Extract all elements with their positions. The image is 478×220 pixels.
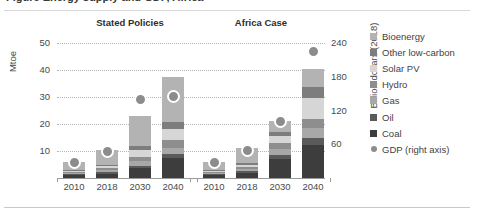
gdp-marker-africa-case-2040[interactable] — [307, 45, 320, 58]
legend-item-other-low-carbon[interactable]: Other low-carbon — [370, 44, 476, 60]
x-tick-label-africa-case-2018: 2018 — [230, 181, 264, 192]
panel-tick-1-0 — [197, 178, 198, 182]
x-tick-label-stated-policies-2018: 2018 — [90, 181, 124, 192]
gdp-marker-stated-policies-2018[interactable] — [101, 145, 114, 158]
gdp-marker-stated-policies-2010[interactable] — [68, 156, 81, 169]
x-axis-line — [57, 178, 325, 179]
gdp-marker-stated-policies-2030[interactable] — [134, 93, 147, 106]
left-axis-tick-50: 50 — [26, 37, 50, 48]
chart-figure: Figure Energy supply and GDP, Africa Sta… — [0, 0, 478, 220]
left-axis-title: Mtoe — [7, 42, 18, 82]
x-tick-label-stated-policies-2040: 2040 — [156, 181, 190, 192]
left-axis-tick-30: 30 — [26, 91, 50, 102]
gdp-marker-stated-policies-2040[interactable] — [167, 90, 180, 103]
legend-label: Hydro — [382, 79, 407, 90]
legend-swatch-icon — [370, 97, 377, 104]
legend-label: Bioenergy — [382, 31, 425, 42]
legend-item-solar-pv[interactable]: Solar PV — [370, 60, 476, 76]
plot-area — [57, 30, 325, 178]
legend-label: Coal — [382, 128, 402, 139]
x-tick-label-africa-case-2030: 2030 — [263, 181, 297, 192]
legend-swatch-icon — [370, 33, 377, 40]
panel-tick-0-0 — [57, 178, 58, 182]
legend-label: GDP (right axis) — [382, 144, 449, 155]
x-tick-label-africa-case-2040: 2040 — [296, 181, 330, 192]
legend-item-bioenergy[interactable]: Bioenergy — [370, 28, 476, 44]
legend-item-coal[interactable]: Coal — [370, 125, 476, 141]
right-axis-tick-240: 240 — [331, 37, 357, 48]
figure-title-clipped: Figure Energy supply and GDP, Africa — [0, 0, 478, 9]
left-axis-tick-40: 40 — [26, 64, 50, 75]
bottom-divider — [4, 207, 470, 208]
legend-item-oil[interactable]: Oil — [370, 109, 476, 125]
legend-item-gdp-right-axis[interactable]: GDP (right axis) — [370, 141, 476, 157]
x-tick-label-stated-policies-2030: 2030 — [123, 181, 157, 192]
left-axis-tick-20: 20 — [26, 118, 50, 129]
legend-dot-icon — [371, 146, 377, 152]
legend-swatch-icon — [370, 81, 377, 88]
figure-title-text: Figure Energy supply and GDP, Africa — [6, 0, 203, 3]
right-axis-tick-180: 180 — [331, 71, 357, 82]
legend-swatch-icon — [370, 130, 377, 137]
group-header-africa-case: Africa Case — [196, 17, 326, 28]
legend-swatch-icon — [370, 49, 377, 56]
gdp-marker-africa-case-2018[interactable] — [241, 144, 254, 157]
panel-tick-0-1 — [190, 178, 191, 182]
legend-swatch-icon — [370, 65, 377, 72]
legend-label: Solar PV — [382, 63, 420, 74]
legend-swatch-icon — [370, 114, 377, 121]
legend-label: Other low-carbon — [382, 47, 455, 58]
gdp-marker-africa-case-2030[interactable] — [274, 115, 287, 128]
left-axis-tick-10: 10 — [26, 145, 50, 156]
x-tick-label-africa-case-2010: 2010 — [197, 181, 231, 192]
right-axis-tick-60: 60 — [331, 138, 357, 149]
legend: BioenergyOther low-carbonSolar PVHydroGa… — [370, 28, 476, 158]
title-divider — [4, 10, 470, 11]
gdp-marker-africa-case-2010[interactable] — [208, 156, 221, 169]
group-header-stated-policies: Stated Policies — [60, 17, 200, 28]
legend-item-gas[interactable]: Gas — [370, 93, 476, 109]
panel-tick-1-1 — [330, 178, 331, 182]
legend-item-hydro[interactable]: Hydro — [370, 77, 476, 93]
gdp-markers-layer — [57, 30, 325, 178]
x-tick-label-stated-policies-2010: 2010 — [57, 181, 91, 192]
right-axis-tick-120: 120 — [331, 105, 357, 116]
legend-label: Oil — [382, 112, 394, 123]
legend-label: Gas — [382, 95, 399, 106]
